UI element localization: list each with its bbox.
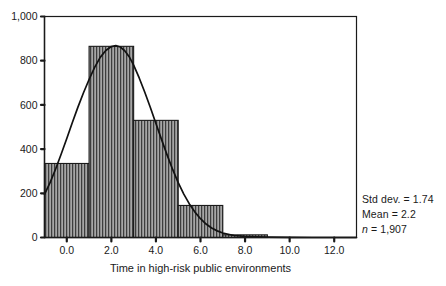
y-axis-tick-label: 400 xyxy=(20,143,38,155)
y-axis: 02004006008001,000 xyxy=(11,10,44,243)
x-axis-tick-label: 10.0 xyxy=(279,244,300,256)
x-axis-title: Time in high-risk public environments xyxy=(110,262,292,274)
n-value: = 1,907 xyxy=(368,223,407,235)
x-axis-tick-label: 0.0 xyxy=(59,244,74,256)
histogram-bars xyxy=(45,46,268,237)
y-axis-tick-label: 200 xyxy=(20,187,38,199)
x-axis-tick-label: 8.0 xyxy=(238,244,253,256)
histogram-bar xyxy=(134,120,179,237)
statistics-annotation-block: Std dev. = 1.74 Mean = 2.2 n = 1,907 xyxy=(362,192,446,237)
histogram-chart: 02004006008001,000 0.02.04.06.08.010.012… xyxy=(0,0,446,286)
histogram-figure: 02004006008001,000 0.02.04.06.08.010.012… xyxy=(0,0,446,286)
y-axis-tick-label: 600 xyxy=(20,99,38,111)
y-axis-tick-label: 1,000 xyxy=(11,10,37,22)
histogram-bar xyxy=(45,163,90,237)
histogram-bar xyxy=(89,46,134,237)
sample-size-annotation: n = 1,907 xyxy=(362,222,446,237)
x-axis-tick-label: 2.0 xyxy=(104,244,119,256)
histogram-bar xyxy=(178,205,223,237)
y-axis-tick-label: 800 xyxy=(20,54,38,66)
y-axis-tick-label: 0 xyxy=(32,231,38,243)
mean-annotation: Mean = 2.2 xyxy=(362,207,446,222)
x-axis-tick-label: 4.0 xyxy=(149,244,164,256)
x-axis-tick-label: 12.0 xyxy=(324,244,345,256)
x-axis: 0.02.04.06.08.010.012.0 xyxy=(59,238,344,256)
std-dev-annotation: Std dev. = 1.74 xyxy=(362,192,446,207)
x-axis-tick-label: 6.0 xyxy=(193,244,208,256)
